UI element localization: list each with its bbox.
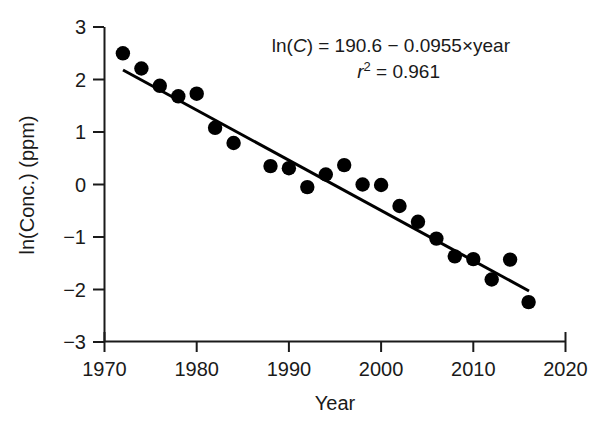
data-point	[374, 178, 388, 192]
data-point	[282, 161, 296, 175]
y-tick-label-2: 2	[75, 69, 86, 91]
scatter-plot-canvas: 3 2 1 0 −1 −2 −3 1970 1980 1990 2000 201…	[0, 0, 604, 431]
r-squared-value: = 0.961	[371, 61, 440, 82]
data-point	[134, 61, 148, 75]
y-tick-label-3: 3	[75, 16, 86, 38]
data-point	[355, 177, 369, 191]
data-point	[300, 180, 314, 194]
data-point	[448, 249, 462, 263]
chart-figure: 3 2 1 0 −1 −2 −3 1970 1980 1990 2000 201…	[0, 0, 604, 431]
x-tick-label-2010: 2010	[451, 358, 496, 380]
data-point	[392, 199, 406, 213]
y-tick-label-0: 0	[75, 174, 86, 196]
x-axis-tick-labels: 1970 1980 1990 2000 2010 2020	[82, 358, 588, 380]
data-point	[503, 252, 517, 266]
data-point	[337, 158, 351, 172]
x-tick-label-1980: 1980	[174, 358, 219, 380]
y-tick-label-1: 1	[75, 121, 86, 143]
equation-prefix: ln(	[272, 35, 294, 56]
y-axis-tick-labels: 3 2 1 0 −1 −2 −3	[63, 16, 86, 353]
x-tick-label-2020: 2020	[543, 358, 588, 380]
data-point	[429, 231, 443, 245]
equation-variable: C	[293, 35, 307, 56]
equation-body: ) = 190.6 − 0.0955×year	[307, 35, 511, 56]
data-point	[226, 136, 240, 150]
y-axis-title: ln(Conc.) (ppm)	[16, 116, 38, 255]
r-squared-text: r2 = 0.961	[357, 59, 440, 82]
data-points-group	[116, 46, 536, 309]
data-point	[466, 252, 480, 266]
data-point	[171, 89, 185, 103]
x-axis-title: Year	[315, 392, 356, 414]
fit-annotation: ln(C) = 190.6 − 0.0955×year r2 = 0.961	[272, 35, 511, 82]
x-tick-label-1990: 1990	[267, 358, 312, 380]
y-tick-label-neg1: −1	[63, 226, 86, 248]
data-point	[116, 46, 130, 60]
r-exponent: 2	[364, 59, 371, 74]
y-tick-label-neg3: −3	[63, 331, 86, 353]
data-point	[319, 167, 333, 181]
data-point	[153, 79, 167, 93]
y-tick-label-neg2: −2	[63, 279, 86, 301]
data-point	[190, 87, 204, 101]
data-point	[485, 272, 499, 286]
x-tick-label-2000: 2000	[359, 358, 404, 380]
data-point	[411, 215, 425, 229]
data-point	[521, 295, 535, 309]
regression-equation-text: ln(C) = 190.6 − 0.0955×year	[272, 35, 511, 56]
data-point	[263, 159, 277, 173]
x-tick-label-1970: 1970	[82, 358, 127, 380]
y-axis-ticks	[93, 27, 104, 342]
data-point	[208, 121, 222, 135]
